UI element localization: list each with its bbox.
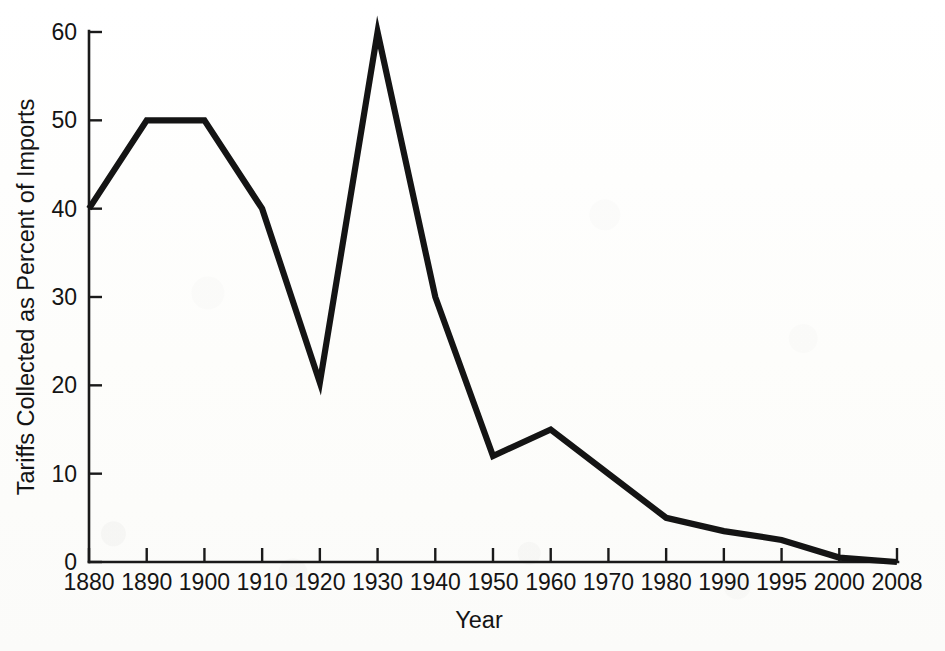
x-tick-label-1990: 1990: [698, 569, 749, 595]
x-tick-label-1880: 1880: [63, 569, 114, 595]
y-tick-label-10: 10: [51, 461, 77, 487]
x-axis-ticks: [89, 548, 897, 562]
x-tick-label-1940: 1940: [410, 569, 461, 595]
line-chart: 0102030405060 18801890190019101920193019…: [0, 0, 945, 651]
x-tick-label-1995: 1995: [756, 569, 807, 595]
y-axis-ticks: [89, 32, 102, 562]
y-tick-label-20: 20: [51, 372, 77, 398]
x-tick-label-1950: 1950: [467, 569, 518, 595]
y-tick-label-30: 30: [51, 284, 77, 310]
y-axis-title: Tariffs Collected as Percent of Imports: [13, 99, 39, 496]
x-tick-label-1890: 1890: [121, 569, 172, 595]
x-axis-tick-labels: 1880189019001910192019301940195019601970…: [63, 569, 922, 595]
x-tick-label-2008: 2008: [871, 569, 922, 595]
x-tick-label-1910: 1910: [237, 569, 288, 595]
x-tick-label-1970: 1970: [583, 569, 634, 595]
y-tick-label-40: 40: [51, 196, 77, 222]
x-tick-label-1900: 1900: [179, 569, 230, 595]
y-axis-tick-labels: 0102030405060: [51, 19, 77, 575]
x-tick-label-1980: 1980: [641, 569, 692, 595]
x-tick-label-1960: 1960: [525, 569, 576, 595]
x-tick-label-2000: 2000: [814, 569, 865, 595]
x-tick-label-1930: 1930: [352, 569, 403, 595]
x-tick-label-1920: 1920: [294, 569, 345, 595]
data-series-line: [89, 32, 897, 562]
y-tick-label-50: 50: [51, 107, 77, 133]
chart-page: 0102030405060 18801890190019101920193019…: [0, 0, 945, 651]
y-tick-label-60: 60: [51, 19, 77, 45]
x-axis-title: Year: [455, 607, 503, 633]
